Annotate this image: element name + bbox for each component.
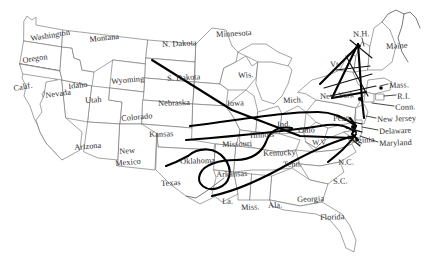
state-label-maryland: Maryland [379, 139, 412, 148]
leader-conn [372, 103, 394, 106]
state-label-new-jersey: New Jersey [377, 115, 416, 125]
state-label-rhode-island: R.I. [397, 93, 410, 102]
state-label-utah: Utah [85, 96, 102, 105]
state-label-virginia: Virginia [347, 136, 375, 145]
state-label-new-mexico-1: New [119, 147, 135, 157]
state-label-iowa: Iowa [227, 99, 244, 108]
map-canvas [0, 0, 428, 265]
state-label-south-dakota: S. Dakota [167, 73, 201, 83]
state-label-texas: Texas [161, 179, 181, 188]
state-label-arkansas: Arkansas [216, 170, 248, 179]
state-label-michigan: Mich. [283, 96, 303, 105]
state-label-florida: Florida [320, 213, 345, 222]
state-label-maine: Maine [386, 42, 408, 51]
state-label-kentucky: Kentucky [263, 149, 296, 158]
state-label-connecticut: Conn. [395, 103, 416, 112]
state-label-oklahoma: Oklahoma [180, 157, 215, 166]
node-baltimore [351, 125, 355, 129]
state-label-indiana: Ind. [277, 121, 291, 130]
state-label-kansas: Kansas [149, 130, 174, 139]
state-label-illinois: Illinois [250, 131, 274, 140]
leader-ri [384, 95, 396, 96]
state-label-louisiana: La. [222, 198, 233, 207]
state-label-missouri: Missouri [222, 140, 252, 149]
state-label-pennsylvania: Penn. [333, 114, 352, 123]
node-new-york [358, 97, 362, 101]
state-label-new-hampshire: N.H. [353, 30, 370, 39]
state-label-delaware: Delaware [379, 127, 411, 136]
state-label-tennessee: Tenn. [283, 160, 302, 169]
state-label-wisconsin: Wis. [238, 71, 254, 80]
state-label-nebraska: Nebraska [158, 99, 190, 108]
state-label-vermont: Vt. [330, 60, 341, 69]
state-label-south-carolina: S.C. [333, 177, 348, 186]
state-label-massachusetts: Mass. [389, 81, 409, 90]
leader-new-jersey [366, 116, 376, 118]
leader-delaware [362, 127, 378, 130]
state-label-ohio: Ohio [298, 126, 315, 135]
state-label-georgia: Georgia [297, 195, 324, 204]
state-label-mississippi: Miss. [241, 203, 260, 212]
node-portsmouth [357, 44, 361, 48]
state-label-north-carolina: N.C. [338, 158, 354, 167]
state-label-alabama: Ala. [268, 202, 283, 211]
state-label-west-virginia: W.V. [312, 138, 327, 146]
node-boston [379, 86, 383, 90]
us-route-map: Washington Oregon Montana Idaho Wyoming … [0, 0, 428, 265]
